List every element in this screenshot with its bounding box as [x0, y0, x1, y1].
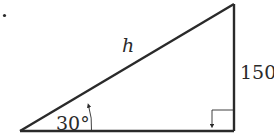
- triangle: [20, 4, 234, 131]
- right-triangle-diagram: h 150 30°: [0, 0, 274, 135]
- angle-label: 30°: [56, 112, 90, 134]
- problem-marker-dot: [3, 14, 6, 17]
- hypotenuse-side: [20, 4, 234, 131]
- opposite-side-label: 150: [240, 61, 274, 83]
- hypotenuse-label: h: [122, 34, 134, 56]
- right-angle-marker: [212, 110, 234, 126]
